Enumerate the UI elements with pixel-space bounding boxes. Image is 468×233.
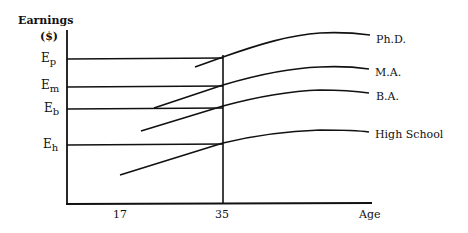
- y-axis-title: Earnings: [18, 14, 73, 27]
- ep-label: Ep: [41, 51, 56, 67]
- ep-label-base: E: [41, 51, 50, 65]
- y-axis-unit: ($): [40, 30, 58, 43]
- x-tick-35: 35: [215, 208, 229, 221]
- highschool-earnings-curve: [120, 130, 369, 175]
- ma-curve-label: M.A.: [375, 66, 401, 79]
- ba-earnings-curve: [141, 90, 369, 131]
- eh-guide-line: [67, 144, 223, 145]
- phd-curve-label: Ph.D.: [376, 33, 406, 46]
- ma-earnings-curve: [154, 67, 369, 108]
- x-axis: [66, 203, 372, 204]
- eb-label-base: E: [44, 101, 53, 115]
- highschool-curve-label: High School: [375, 128, 443, 141]
- eb-guide-line: [67, 108, 223, 109]
- ba-curve-label: B.A.: [376, 90, 399, 103]
- phd-earnings-curve: [195, 33, 370, 67]
- x-axis-title: Age: [359, 208, 381, 221]
- eb-label: Eb: [44, 101, 59, 117]
- em-label-sub: m: [50, 83, 59, 94]
- eh-label-base: E: [43, 137, 52, 151]
- em-label: Em: [41, 78, 59, 94]
- em-guide-line: [67, 86, 223, 87]
- ep-guide-line: [67, 58, 223, 59]
- eb-label-sub: b: [53, 106, 59, 117]
- x-tick-17: 17: [113, 208, 127, 221]
- eh-label-sub: h: [52, 142, 58, 153]
- eh-label: Eh: [43, 137, 58, 153]
- ep-label-sub: p: [50, 56, 56, 67]
- em-label-base: E: [41, 78, 50, 92]
